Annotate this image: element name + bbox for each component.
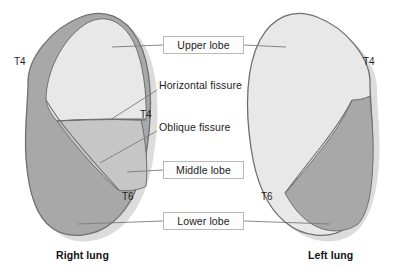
callout-middle-lobe[interactable]: Middle lobe — [163, 161, 244, 179]
label-right-t4-apexlateral: T4 — [14, 57, 26, 67]
label-horizontal-fissure: Horizontal fissure — [159, 80, 242, 91]
label-right-lung: Right lung — [56, 250, 109, 261]
label-left-t4: T4 — [363, 57, 375, 67]
callout-upper-lobe-label: Upper lobe — [177, 40, 229, 51]
callout-lower-lobe-label: Lower lobe — [177, 216, 229, 227]
left-lung-group — [248, 13, 380, 241]
callout-lower-lobe[interactable]: Lower lobe — [163, 212, 244, 230]
label-right-t6: T6 — [122, 192, 134, 202]
callout-upper-lobe[interactable]: Upper lobe — [163, 36, 244, 54]
label-right-t4-fissure: T4 — [140, 110, 152, 120]
label-left-lung: Left lung — [308, 250, 353, 261]
callout-middle-lobe-label: Middle lobe — [176, 165, 231, 176]
right-lung-group — [25, 13, 157, 241]
lung-lobes-diagram: Upper lobe Middle lobe Lower lobe Horizo… — [0, 0, 405, 273]
label-left-t6: T6 — [261, 192, 273, 202]
label-oblique-fissure: Oblique fissure — [159, 122, 231, 133]
